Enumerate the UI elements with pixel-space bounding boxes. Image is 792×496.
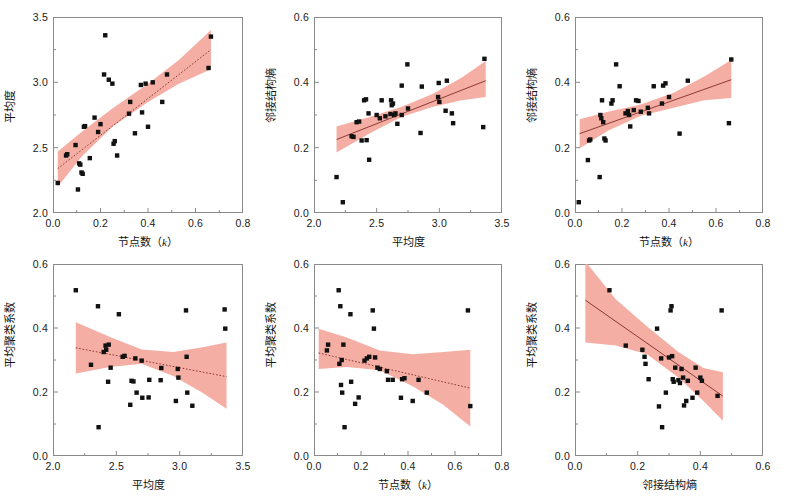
plot-canvas [575,264,763,456]
confidence-band [585,264,723,421]
x-tick-label: 0.6 [755,460,770,472]
data-point [684,399,688,403]
data-point [664,390,668,394]
data-point [672,380,676,384]
data-point [657,404,661,408]
data-point [624,343,628,347]
x-tick-label: 0.4 [693,460,708,472]
data-point [686,379,690,383]
data-point [715,394,719,398]
data-point [640,348,644,352]
x-tick-label: 0.2 [630,460,645,472]
data-point [659,356,663,360]
data-point [700,379,704,383]
scatter-panel-6: 0.00.20.40.60.00.20.40.6邻接结构熵平均聚类系数 [0,0,792,496]
y-tick-label: 0.6 [543,258,570,270]
y-tick-label: 0.4 [543,322,570,334]
data-point [679,367,683,371]
x-axis-title: 邻接结构熵 [642,476,697,492]
data-point [678,381,682,385]
data-point [660,425,664,429]
y-tick-label: 0.2 [543,386,570,398]
data-point [719,308,723,312]
y-axis-title: 平均聚类系数 [523,352,539,368]
data-point [669,304,673,308]
y-tick-label: 0.0 [543,450,570,462]
data-point [607,288,611,292]
figure-scatter-matrix: 0.00.20.40.60.82.02.53.03.5节点数（k）平均度2.02… [0,0,792,496]
data-point [693,365,697,369]
data-point [655,326,659,330]
data-point [690,396,694,400]
data-point [646,377,650,381]
data-point [642,355,646,359]
data-point [670,354,674,358]
data-point [668,308,672,312]
data-point [643,362,647,366]
data-point [695,390,699,394]
data-point [681,375,685,379]
data-point [682,403,686,407]
data-point [673,365,677,369]
